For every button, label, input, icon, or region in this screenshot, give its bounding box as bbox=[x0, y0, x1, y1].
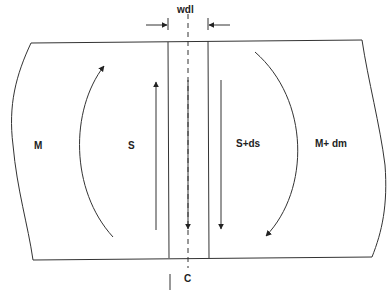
beam-element-diagram: wdl M S S+ds M+ dm C bbox=[0, 0, 391, 296]
slice-right-boundary bbox=[208, 41, 209, 258]
centerline-label: C bbox=[184, 273, 191, 284]
left-moment-arrow-icon bbox=[80, 66, 113, 237]
beam-element-outline bbox=[12, 40, 386, 260]
right-moment-arrow-icon bbox=[255, 52, 298, 236]
slice-left-boundary bbox=[168, 42, 169, 258]
right-shear-label: S+ds bbox=[236, 138, 261, 149]
left-moment-label: M bbox=[34, 140, 42, 151]
width-label: wdl bbox=[176, 4, 194, 15]
left-shear-label: S bbox=[128, 140, 135, 151]
right-moment-label: M+ dm bbox=[315, 138, 347, 149]
